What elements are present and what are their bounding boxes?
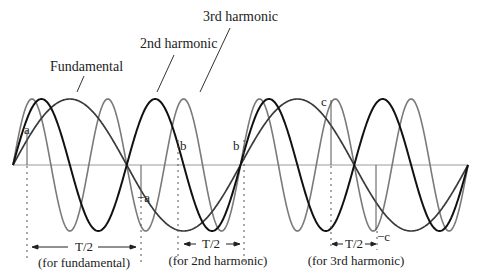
point-b1-label: b [180, 139, 187, 152]
point-b2-label: b [233, 139, 240, 152]
second-harmonic-leader-line [157, 55, 174, 92]
third-harmonic-label: 3rd harmonic [203, 10, 278, 24]
harmonics-diagram [0, 0, 479, 277]
fundamental-leader-line [77, 76, 84, 92]
period-label-second: T/2 [197, 237, 225, 250]
fundamental-label: Fundamental [50, 60, 123, 74]
period-sub-fundamental: (for fundamental) [30, 256, 138, 269]
point-c-label: c [321, 95, 327, 108]
point-neg-c-label: −c [377, 230, 390, 243]
point-neg-a-label: −a [137, 191, 150, 204]
point-a-label: a [24, 123, 30, 136]
period-sub-third: (for 3rd harmonic) [306, 254, 406, 267]
period-sub-second: (for 2nd harmonic) [158, 254, 278, 267]
second-harmonic-label: 2nd harmonic [140, 37, 217, 51]
period-label-third: T/2 [341, 237, 367, 250]
period-label-fundamental: T/2 [70, 240, 98, 253]
